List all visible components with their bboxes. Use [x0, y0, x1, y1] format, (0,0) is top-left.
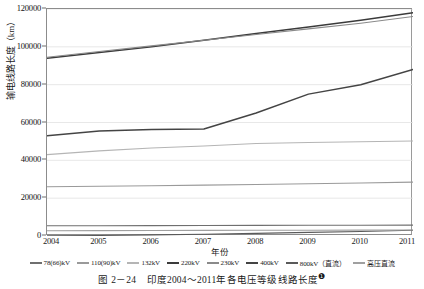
series-line-: [47, 230, 413, 231]
legend-swatch: [127, 262, 139, 264]
legend-swatch: [167, 262, 179, 264]
legend-label: 400kV: [260, 259, 279, 267]
y-tick-label: 40000: [21, 154, 41, 164]
series-line-400kv: [47, 70, 413, 136]
legend-item: 132kV: [127, 259, 160, 267]
chart-plot-area: [46, 8, 412, 235]
legend-swatch: [286, 262, 298, 264]
y-tick-label: 80000: [21, 79, 41, 89]
legend-item: 400kV: [246, 259, 279, 267]
caption-footnote-marker: ❶: [318, 272, 325, 281]
legend-item: 78(66)kV: [30, 259, 70, 267]
series-line-230kv: [47, 17, 413, 58]
y-tick-label: 100000: [17, 41, 41, 51]
legend-item: 800kV（直流）: [286, 258, 346, 268]
legend-label: 800kV（直流）: [300, 258, 346, 268]
y-tick-label: 20000: [21, 192, 41, 202]
legend-item: 110(90)kV: [77, 259, 121, 267]
y-tick-label: 60000: [21, 117, 41, 127]
y-tick-label: 120000: [17, 3, 41, 13]
legend-swatch: [246, 262, 258, 264]
series-line-132kv: [47, 141, 413, 155]
legend-label: 230kV: [221, 259, 240, 267]
figure-container: 输电线路长度（km） 02000040000600008000010000012…: [0, 0, 424, 289]
chart-legend: 78(66)kV110(90)kV132kV220kV230kV400kV800…: [0, 258, 424, 268]
series-line-11090kv: [47, 182, 413, 187]
legend-swatch: [353, 262, 365, 264]
legend-swatch: [77, 262, 89, 264]
legend-item: 220kV: [167, 259, 200, 267]
plot-frame: [46, 8, 412, 235]
legend-swatch: [207, 262, 219, 264]
caption-text: 印度2004～2011年各电压等级线路长度: [147, 275, 319, 285]
legend-label: 78(66)kV: [44, 259, 70, 267]
legend-item: 230kV: [207, 259, 240, 267]
legend-label: 220kV: [181, 259, 200, 267]
legend-label: 110(90)kV: [91, 259, 121, 267]
series-line-7866kv: [47, 225, 413, 226]
figure-caption: 图 2－24 印度2004～2011年各电压等级线路长度❶: [0, 272, 424, 286]
legend-swatch: [30, 262, 42, 264]
x-axis-title: 年份: [8, 245, 424, 257]
y-axis-ticks: 020000400006000080000100000120000: [0, 8, 46, 235]
caption-number: 图 2－24: [98, 275, 136, 285]
legend-label: 高压直流: [367, 258, 395, 268]
legend-label: 132kV: [141, 259, 160, 267]
legend-item: 高压直流: [353, 258, 395, 268]
y-tick-label: 0: [37, 230, 41, 240]
plot-svg: [47, 9, 413, 236]
